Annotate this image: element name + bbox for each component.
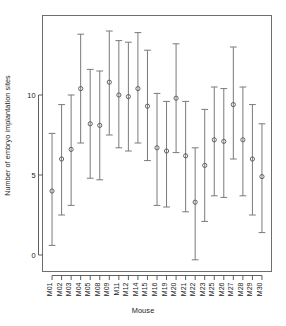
x-axis-tick-label: M29 [246, 282, 253, 296]
x-axis-tick-label: M01 [46, 282, 53, 296]
chart-figure: Number of embryo implantation sites Mous… [0, 0, 286, 326]
data-series [49, 31, 266, 260]
data-point-group [192, 148, 199, 260]
x-axis-tick-label: M26 [218, 282, 225, 296]
data-point-group [211, 87, 218, 196]
data-point-group [58, 105, 65, 215]
data-point-group [49, 133, 56, 245]
x-axis-tick-label: M25 [208, 282, 215, 296]
data-point-group [201, 109, 208, 221]
data-point-group [135, 33, 142, 143]
data-point-group [163, 101, 170, 207]
x-axis-tick-label: M22 [189, 282, 196, 296]
x-axis-tick-label: M20 [170, 282, 177, 296]
x-axis-tick-label: M14 [132, 282, 139, 296]
y-axis-tick-label: 10 [27, 91, 35, 100]
data-point-group [239, 87, 246, 196]
data-point-group [125, 42, 132, 151]
x-axis-tick-label: M12 [122, 282, 129, 296]
data-point-group [144, 50, 151, 160]
data-point-group [230, 47, 237, 159]
y-axis-tick-label: 0 [31, 251, 35, 260]
data-point-group [259, 124, 266, 233]
x-axis-tick-label: M28 [237, 282, 244, 296]
x-axis-tick-label: M15 [141, 282, 148, 296]
x-axis-tick-label: M09 [103, 282, 110, 296]
x-axis-tick-label: M05 [84, 282, 91, 296]
data-point-group [115, 41, 122, 148]
x-axis-tick-label: M30 [256, 282, 263, 296]
data-point-group [96, 71, 103, 180]
x-axis-tick-label: M02 [56, 282, 63, 296]
x-axis-tick-label: M03 [65, 282, 72, 296]
data-point-group [173, 44, 180, 153]
y-axis-tick-label: 5 [31, 171, 35, 180]
data-point-group [77, 34, 84, 143]
data-point-group [106, 31, 113, 135]
x-axis-tick-label: M16 [151, 282, 158, 296]
x-axis-tick-label: M21 [180, 282, 187, 296]
x-axis-tick-label: M23 [199, 282, 206, 296]
plot-svg: 0510 M01M02M03M04M05M08M09M11M12M14M15M1… [0, 0, 286, 326]
x-axis-tick-label: M27 [227, 282, 234, 296]
data-point-group [220, 89, 227, 198]
data-point-group [154, 93, 161, 205]
x-axis-tick-label: M19 [161, 282, 168, 296]
x-axis: M01M02M03M04M05M08M09M11M12M14M15M16M19M… [46, 276, 263, 297]
y-axis: 0510 [27, 91, 42, 260]
data-point-group [249, 105, 256, 215]
x-axis-tick-label: M04 [75, 282, 82, 296]
data-point-group [182, 101, 189, 211]
data-point-group [68, 95, 75, 205]
x-axis-tick-label: M11 [113, 282, 120, 295]
data-point-group [87, 69, 94, 178]
x-axis-tick-label: M08 [94, 282, 101, 296]
